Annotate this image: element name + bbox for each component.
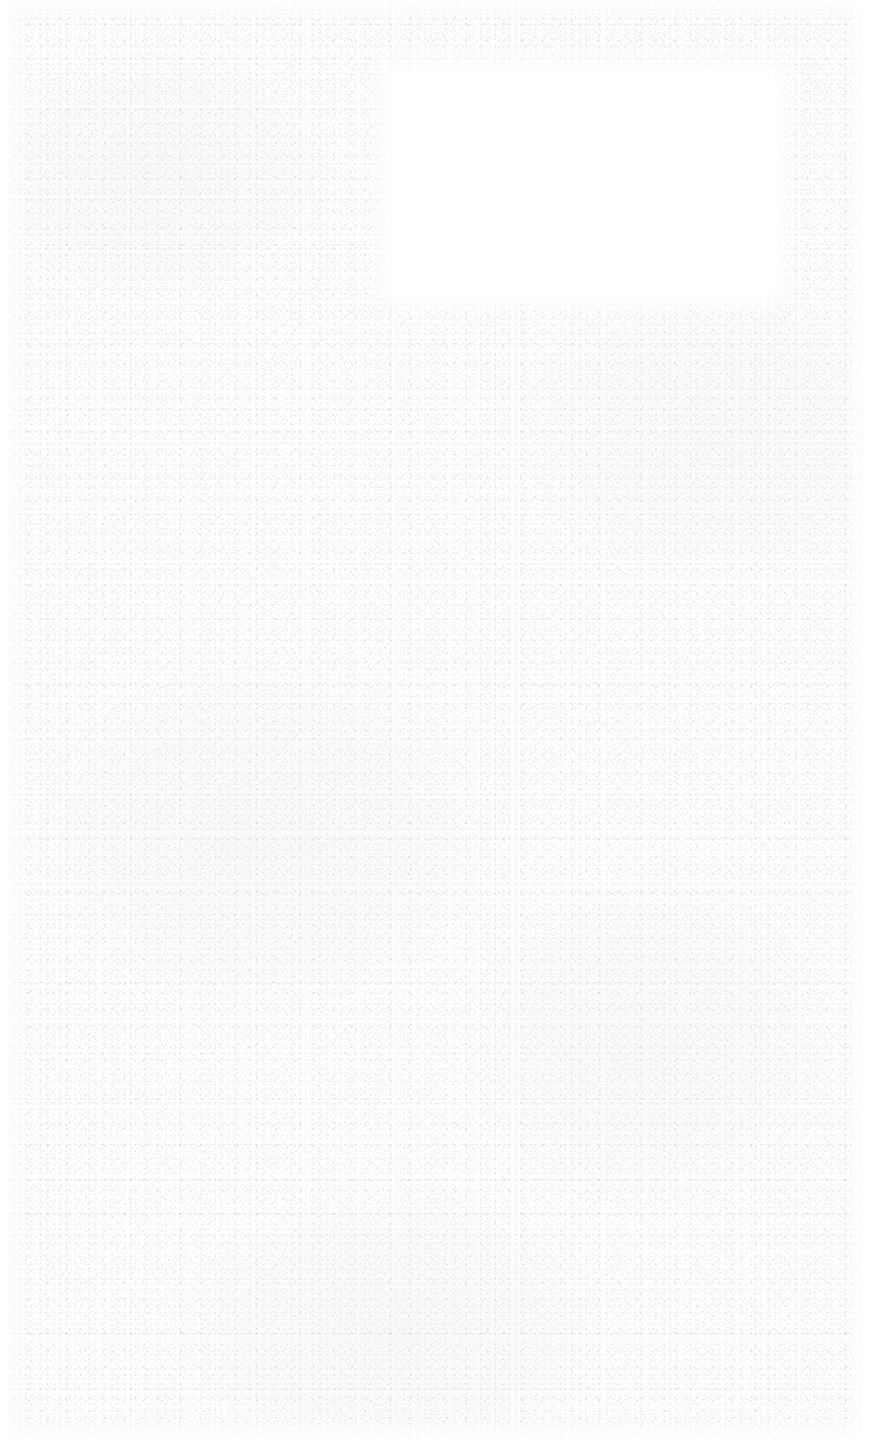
page-canvas [0,0,873,1442]
blank-white-panel [395,75,770,290]
